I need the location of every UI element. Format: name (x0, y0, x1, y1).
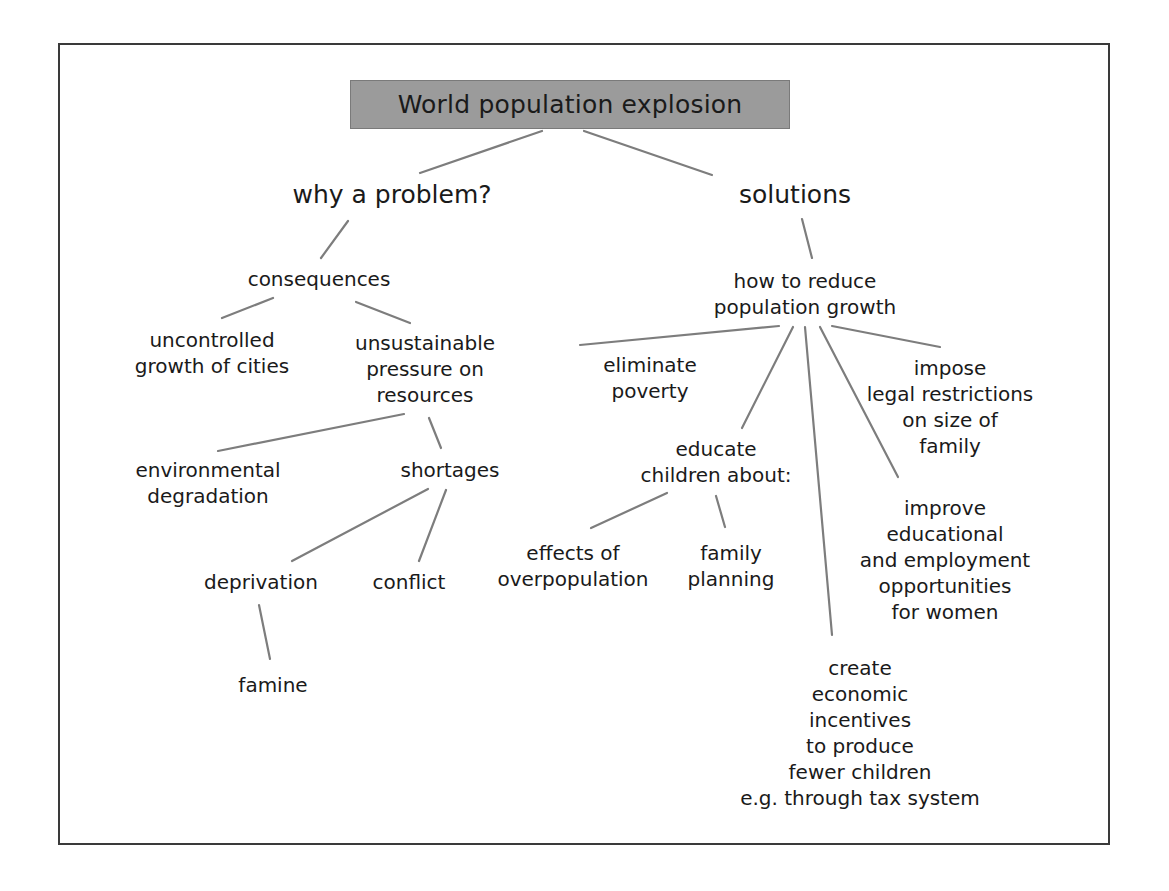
node-eliminate-poverty: eliminate poverty (603, 352, 697, 404)
node-solutions: solutions (739, 180, 851, 210)
node-deprivation: deprivation (204, 569, 318, 595)
node-environmental-degradation: environmental degradation (135, 457, 280, 509)
node-conflict: conflict (373, 569, 446, 595)
node-how-to-reduce: how to reduce population growth (714, 268, 896, 320)
title-node: World population explosion (350, 80, 790, 129)
node-impose-restrictions: impose legal restrictions on size of fam… (867, 355, 1034, 459)
node-unsustainable-pressure: unsustainable pressure on resources (355, 330, 495, 408)
node-create-incentives: create economic incentives to produce fe… (740, 655, 980, 811)
node-why-a-problem: why a problem? (292, 180, 491, 210)
node-shortages: shortages (400, 457, 499, 483)
node-family-planning: family planning (688, 540, 775, 592)
node-consequences: consequences (248, 266, 391, 292)
node-effects-of-overpopulation: effects of overpopulation (497, 540, 648, 592)
node-uncontrolled-growth: uncontrolled growth of cities (135, 327, 289, 379)
node-improve-opportunities: improve educational and employment oppor… (860, 495, 1030, 625)
node-educate-children: educate children about: (640, 436, 791, 488)
node-famine: famine (238, 672, 307, 698)
